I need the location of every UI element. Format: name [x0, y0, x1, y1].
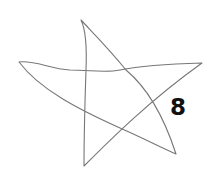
- star-stroke: [19, 20, 202, 166]
- number-label: 8: [170, 95, 186, 119]
- star-drawing: [0, 0, 212, 180]
